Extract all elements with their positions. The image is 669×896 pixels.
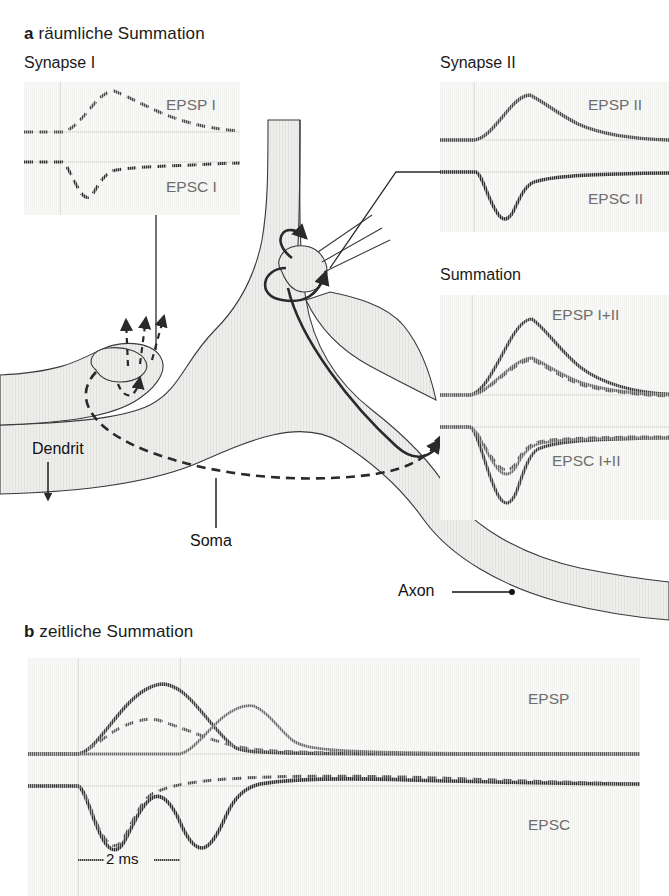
section-label-b: b zeitliche Summation	[24, 622, 193, 642]
trace-epsp-sum	[440, 319, 669, 395]
trace-epsc-singles	[28, 776, 640, 846]
leader-line-synapse-2	[330, 172, 440, 268]
trace-label-epsp-sum: EPSP I+II	[552, 306, 619, 324]
panel-title-synapse-2: Synapse II	[440, 54, 516, 72]
trace-label-epsp-1: EPSP I	[166, 96, 216, 114]
panel-title-synapse-1: Synapse I	[24, 54, 95, 72]
trace-label-epsp-temporal: EPSP	[528, 690, 569, 708]
panel-summation	[440, 295, 669, 520]
trace-label-epsp-2: EPSP II	[588, 96, 642, 114]
trace-label-epsc-sum: EPSC I+II	[552, 452, 621, 470]
trace-label-epsc-1: EPSC I	[166, 178, 217, 196]
panel-title-summation: Summation	[440, 266, 521, 284]
figure-root: a räumliche Summation	[0, 0, 669, 896]
trace-label-epsc-temporal: EPSC	[528, 816, 570, 834]
section-letter-b: b	[24, 622, 34, 641]
trace-epsc-temporal-sum	[28, 779, 640, 850]
label-soma: Soma	[190, 532, 232, 550]
section-title-b: zeitliche Summation	[39, 622, 193, 641]
scalebar-label: 2 ms	[106, 850, 139, 867]
label-axon: Axon	[398, 582, 434, 600]
trace-label-epsc-2: EPSC II	[588, 190, 643, 208]
label-dendrite: Dendrit	[32, 440, 84, 458]
